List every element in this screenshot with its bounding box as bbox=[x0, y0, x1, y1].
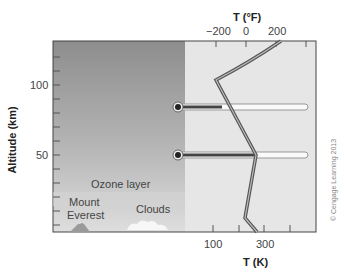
top-tick-200: 200 bbox=[268, 25, 286, 37]
thermometer-upper bbox=[173, 102, 308, 112]
top-tick-m200: −200 bbox=[206, 25, 231, 37]
top-axis-title: T (°F) bbox=[233, 11, 261, 23]
chart-canvas bbox=[0, 0, 344, 277]
y-tick-50: 50 bbox=[36, 149, 48, 161]
y-tick-100: 100 bbox=[30, 79, 48, 91]
clouds-label: Clouds bbox=[136, 203, 170, 215]
top-tick-0: 0 bbox=[243, 25, 249, 37]
mount-label-2: Everest bbox=[67, 209, 104, 221]
bottom-tick-300: 300 bbox=[256, 238, 274, 250]
y-axis-title: Altitude (km) bbox=[6, 106, 18, 173]
thermometer-lower bbox=[173, 150, 308, 160]
ozone-label: Ozone layer bbox=[91, 178, 150, 190]
mount-label-1: Mount bbox=[69, 196, 100, 208]
copyright: © Cengage Learning 2013 bbox=[330, 139, 337, 221]
plot-area bbox=[185, 41, 316, 232]
bottom-axis-title: T (K) bbox=[243, 256, 268, 268]
bottom-tick-100: 100 bbox=[204, 238, 222, 250]
